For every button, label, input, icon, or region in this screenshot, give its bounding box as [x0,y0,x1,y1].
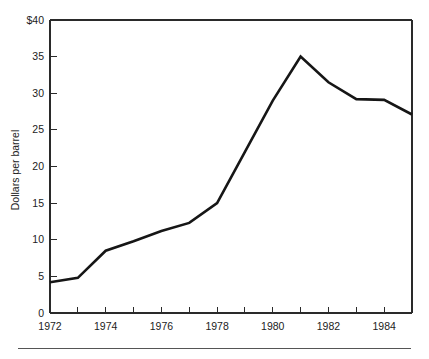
x-axis-tick-labels: 1972197419761978198019821984 [38,320,396,332]
x-tick-label-1972: 1972 [38,320,62,332]
y-tick-label-10: 10 [32,233,44,245]
y-tick-label-35: 35 [32,50,44,62]
y-tick-label-20: 20 [32,160,44,172]
x-tick-label-1980: 1980 [261,320,285,332]
x-tick-label-1978: 1978 [205,320,229,332]
x-tick-label-1984: 1984 [372,320,396,332]
x-tick-label-1982: 1982 [317,320,341,332]
x-axis-ticks [78,307,384,313]
x-tick-label-1974: 1974 [94,320,118,332]
y-tick-label-30: 30 [32,87,44,99]
y-tick-label-0: 0 [38,307,44,319]
plot-frame [50,20,412,313]
line-chart: 05101520253035$40 1972197419761978198019… [0,0,429,359]
x-tick-label-1976: 1976 [150,320,174,332]
y-tick-label-5: 5 [38,270,44,282]
y-axis-title: Dollars per barrel [9,130,21,211]
chart-figure: 05101520253035$40 1972197419761978198019… [0,0,429,359]
y-axis-ticks [50,57,57,277]
y-tick-label-25: 25 [32,123,44,135]
data-series-line [50,57,412,283]
y-tick-label-40: $40 [26,14,44,26]
y-tick-label-15: 15 [32,197,44,209]
y-axis-tick-labels: 05101520253035$40 [26,14,44,319]
